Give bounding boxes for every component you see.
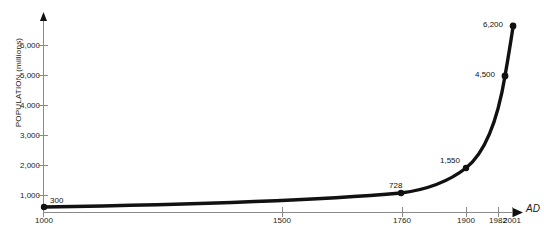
population-curve bbox=[44, 27, 513, 207]
data-point-1550 bbox=[463, 165, 469, 171]
data-point-4500 bbox=[502, 73, 509, 80]
y-axis-arrow-icon bbox=[40, 12, 47, 21]
x-axis-arrow-icon bbox=[513, 208, 523, 217]
data-point-728 bbox=[398, 190, 404, 196]
plot-area bbox=[0, 0, 544, 239]
data-point-6200 bbox=[510, 23, 517, 30]
population-growth-chart: POPULATION (millions) 6,000 5,000 4,000 … bbox=[0, 0, 544, 239]
data-point-300 bbox=[41, 204, 47, 210]
